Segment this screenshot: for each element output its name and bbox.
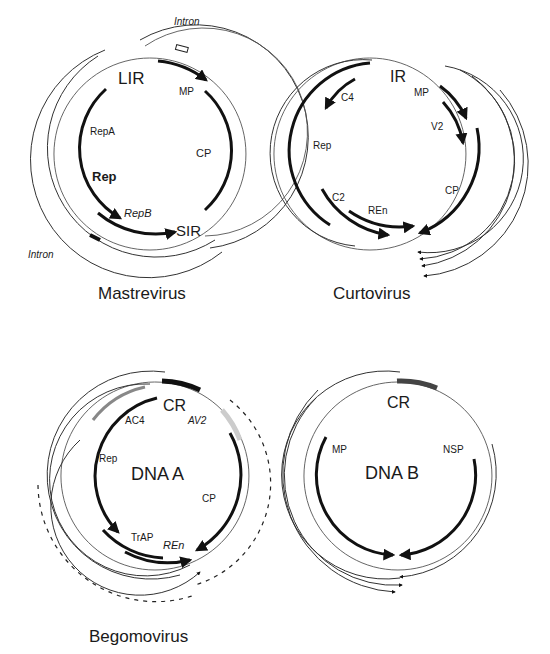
curtovirus-map: IR MP V2 CP C4 Rep C2 REn xyxy=(270,58,528,276)
transcript-arc xyxy=(283,390,395,592)
trap-label: TrAP xyxy=(131,532,154,543)
rep-label: Rep xyxy=(92,169,117,184)
nsp-label: NSP xyxy=(443,444,464,455)
geminivirus-genome-figure: Intron Intron LIR MP CP RepA Rep RepB SI… xyxy=(0,0,550,654)
dna-b-label: DNA B xyxy=(365,463,419,483)
cp-gene-arrow xyxy=(197,433,241,550)
ir-label: IR xyxy=(390,68,406,85)
genome-circle xyxy=(54,58,246,250)
av2-label: AV2 xyxy=(187,415,207,426)
ren-label: REn xyxy=(163,539,184,551)
mp-label: MP xyxy=(179,86,194,97)
repa-label: RepA xyxy=(90,126,115,137)
c2-label: C2 xyxy=(332,192,345,203)
mastrevirus-map: Intron Intron LIR MP CP RepA Rep RepB SI… xyxy=(28,16,308,278)
v2-label: V2 xyxy=(431,121,444,132)
begomovirus-caption: Begomovirus xyxy=(89,627,188,647)
ren-label: REn xyxy=(368,205,387,216)
cp-label: CP xyxy=(202,493,216,504)
cp-label: CP xyxy=(196,147,211,159)
intron-marker xyxy=(90,235,100,240)
cp-gene-arrow xyxy=(420,128,479,233)
mp-label: MP xyxy=(332,444,347,455)
cr-region-marker xyxy=(162,381,200,390)
rep-label: Rep xyxy=(313,140,332,151)
mp-label: MP xyxy=(414,87,429,98)
cr-region-marker xyxy=(397,381,437,388)
dna-a-label: DNA A xyxy=(131,464,184,484)
begomovirus-dna-a-map: CR AC4 AV2 Rep DNA A CP TrAP REn xyxy=(38,371,271,602)
mastrevirus-caption: Mastrevirus xyxy=(98,284,186,304)
lir-label: LIR xyxy=(118,69,144,88)
intron-label: Intron xyxy=(174,16,200,27)
transcript-arc xyxy=(418,66,523,253)
transcript-arc xyxy=(145,28,307,236)
cr-label: CR xyxy=(387,394,410,411)
begomovirus-dna-b-map: CR MP NSP DNA B xyxy=(282,371,497,592)
intron-label: Intron xyxy=(28,249,54,260)
sir-label: SIR xyxy=(176,222,201,239)
ac4-label: AC4 xyxy=(125,415,145,426)
repb-label: RepB xyxy=(124,207,152,219)
transcript-arc xyxy=(284,398,402,585)
mp-gene-arrow xyxy=(316,437,393,555)
rep-label: Rep xyxy=(99,453,118,464)
c4-label: C4 xyxy=(341,92,354,103)
cp-label: CP xyxy=(445,185,459,196)
intron-marker xyxy=(175,45,188,53)
cr-label: CR xyxy=(163,397,186,414)
transcript-arc xyxy=(420,70,515,259)
repa-gene-arrow xyxy=(80,89,120,218)
curtovirus-caption: Curtovirus xyxy=(333,284,410,304)
